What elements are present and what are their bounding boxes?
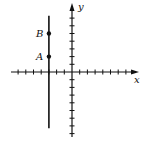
y-axis-label: y — [77, 1, 84, 12]
x-axis-label: x — [134, 74, 140, 85]
coordinate-plane-figure: x y B A — [0, 0, 149, 144]
point-a-label: A — [35, 51, 43, 62]
coordinate-plane-svg: x y B A — [0, 0, 149, 144]
point-b-dot — [47, 31, 51, 35]
point-a-dot — [47, 54, 51, 58]
x-axis: x — [11, 70, 140, 86]
y-axis-arrow-icon — [70, 3, 75, 11]
point-b-label: B — [35, 28, 43, 39]
y-axis: y — [70, 1, 85, 137]
